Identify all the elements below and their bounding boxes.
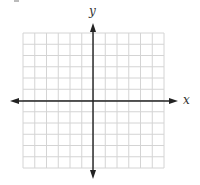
y-axis-label: y <box>89 5 96 17</box>
x-axis-right-arrow-icon <box>169 98 178 104</box>
x-axis-label: x <box>183 94 190 106</box>
y-axis-down-arrow-icon <box>90 170 96 179</box>
x-axis-left-arrow-icon <box>10 98 19 104</box>
coordinate-plane <box>0 0 200 185</box>
y-axis-up-arrow-icon <box>90 23 96 32</box>
